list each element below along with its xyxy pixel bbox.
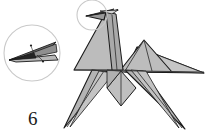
detail-marker-dot-top — [30, 44, 32, 46]
fold-line-front-crease — [67, 71, 104, 127]
detail-marker-dot-bottom — [42, 60, 44, 62]
rear-leg-inner — [131, 70, 179, 128]
origami-step-figure: 6 — [0, 0, 208, 136]
magnified-beak-detail — [4, 25, 60, 81]
step-number: 6 — [28, 108, 38, 130]
fold-line-rear-crease — [137, 71, 182, 128]
origami-horse-figure — [64, 9, 204, 129]
